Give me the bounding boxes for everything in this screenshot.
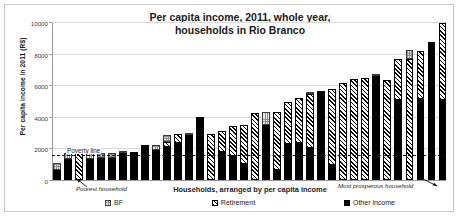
chart-legend: BFRetirementOther income — [105, 199, 395, 206]
y-axis-tick-label: 8000 — [34, 51, 48, 58]
legend-label: BF — [114, 199, 123, 206]
poorest-household-arrow-icon — [65, 173, 91, 191]
poverty-reference-line — [52, 155, 446, 156]
plot-area: 0200040006000800010000 Poverty line — [52, 23, 446, 181]
poverty-line-group: Poverty line — [52, 23, 446, 181]
legend-item[interactable]: Retirement — [212, 199, 255, 206]
y-axis-tick-label: 2000 — [34, 146, 48, 153]
most-prosperous-household-arrow-icon — [417, 171, 447, 191]
poverty-line-label: Poverty line — [66, 147, 101, 154]
y-axis-tick-label: 6000 — [34, 83, 48, 90]
chart-container: Per capita income, 2011, whole year, hou… — [4, 4, 454, 212]
legend-item[interactable]: Other income — [344, 199, 395, 206]
y-axis-tick-label: 10000 — [31, 20, 48, 27]
legend-item[interactable]: BF — [105, 199, 123, 206]
annotation-most-prosperous-household: Most prosperous household — [338, 182, 413, 189]
legend-label: Other income — [353, 199, 395, 206]
y-axis-tick-label: 4000 — [34, 114, 48, 121]
legend-label: Retirement — [221, 199, 255, 206]
legend-swatch-icon — [105, 200, 111, 206]
y-axis-tick-label: 0 — [45, 178, 48, 185]
x-axis-title: Households, arranged by per capita incom… — [155, 185, 345, 194]
legend-swatch-icon — [212, 200, 218, 206]
legend-swatch-icon — [344, 200, 350, 206]
y-axis-title: Per capita income in 2011 (R$) — [19, 22, 26, 152]
